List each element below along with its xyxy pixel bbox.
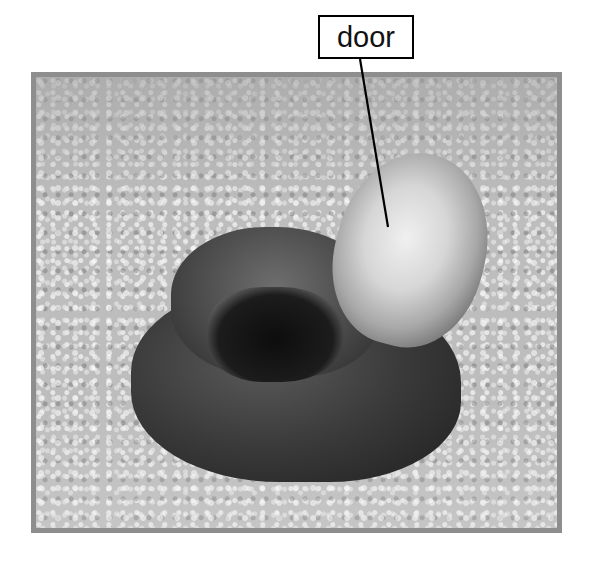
burrow-opening xyxy=(208,287,343,382)
door-label: door xyxy=(318,15,414,59)
door-label-text: door xyxy=(337,21,395,54)
photo-frame xyxy=(31,72,562,533)
